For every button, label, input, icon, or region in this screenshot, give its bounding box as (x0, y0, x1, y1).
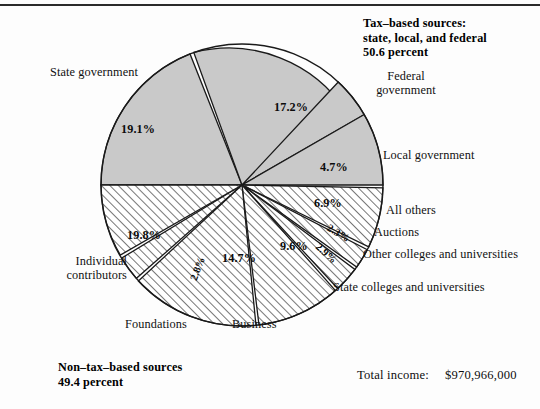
total-income-row: Total income:$970,966,000 (357, 368, 517, 383)
percent-individual-contributors: 19.8% (127, 228, 161, 243)
pie-chart-svg (0, 0, 540, 409)
pie-chart: 19.1% 17.2% 4.7% 6.9% 2.3% 2.9% 9.6% 14.… (0, 0, 540, 409)
label-other-colleges: Other colleges and universities (363, 248, 518, 262)
label-auctions: Auctions (374, 226, 419, 240)
percent-federal-government: 17.2% (274, 100, 308, 115)
percent-state-colleges: 9.6% (280, 239, 308, 254)
label-federal-government: Federal government (358, 70, 454, 97)
percent-all-others: 6.9% (314, 196, 342, 211)
label-local-government: Local government (383, 149, 474, 163)
note-non-tax-based-sources: Non–tax–based sources 49.4 percent (58, 360, 182, 389)
percent-business: 14.7% (222, 251, 256, 266)
label-state-colleges: State colleges and universities (333, 281, 485, 295)
label-business: Business (232, 318, 277, 332)
note-tax-based-sources: Tax–based sources: state, local, and fed… (363, 16, 487, 60)
total-income-label: Total income: (357, 368, 429, 382)
label-individual-contributors: Individual contributors (14, 255, 127, 282)
figure-page: 19.1% 17.2% 4.7% 6.9% 2.3% 2.9% 9.6% 14.… (0, 0, 540, 409)
label-all-others: All others (386, 204, 436, 218)
label-state-government: State government (48, 66, 140, 80)
total-income-value: $970,966,000 (445, 368, 517, 382)
percent-state-government: 19.1% (121, 122, 155, 137)
label-foundations: Foundations (125, 318, 187, 332)
percent-local-government: 4.7% (320, 160, 348, 175)
